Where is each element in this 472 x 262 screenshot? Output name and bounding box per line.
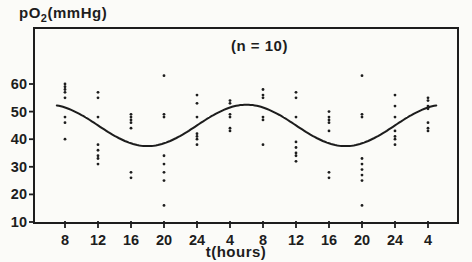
data-point [196,138,199,141]
data-point [394,143,397,146]
data-point [97,116,100,119]
data-point [97,154,100,157]
data-point [64,96,67,99]
data-point [427,121,430,124]
data-point [295,141,298,144]
data-point [295,96,298,99]
data-point [64,85,67,88]
data-point [427,99,430,102]
data-point [262,143,265,146]
data-point [361,174,364,177]
data-point [328,130,331,133]
data-point [196,94,199,97]
data-point [394,138,397,141]
data-point [427,127,430,130]
data-point [328,118,331,121]
data-point [328,171,331,174]
figure: pO2(mmHg) (n = 10) 102030405060812162024… [0,0,472,262]
data-point [361,204,364,207]
y-tick-label: 50 [11,104,27,120]
data-point [427,130,430,133]
data-point [328,116,331,119]
data-point [394,130,397,133]
data-point [196,135,199,138]
data-point [328,110,331,113]
data-point [427,107,430,110]
data-point [97,157,100,160]
data-point [229,113,232,116]
data-point [295,91,298,94]
y-tick-label: 30 [11,159,27,175]
data-point [262,96,265,99]
data-point [64,88,67,91]
data-point [64,83,67,86]
data-point [361,157,364,160]
data-point [427,105,430,108]
data-point [163,204,166,207]
data-point [361,168,364,171]
data-point [97,91,100,94]
data-point [130,121,133,124]
data-point [295,160,298,163]
data-point [361,74,364,77]
data-point [196,116,199,119]
data-point [262,94,265,97]
data-point [163,113,166,116]
data-point [394,116,397,119]
data-point [229,102,232,105]
y-tick-label: 40 [11,131,27,147]
data-point [97,96,100,99]
y-tick-label: 20 [11,186,27,202]
data-point [163,74,166,77]
data-point [130,127,133,130]
data-point [130,171,133,174]
data-point [361,163,364,166]
data-point [97,143,100,146]
data-point [196,102,199,105]
data-point [295,116,298,119]
data-point [361,113,364,116]
data-point [130,116,133,119]
data-point [361,116,364,119]
data-point [262,116,265,119]
data-point [229,116,232,119]
fitted-curve [57,105,437,146]
data-point [97,163,100,166]
data-point [295,154,298,157]
data-point [229,130,232,133]
data-point [295,152,298,155]
data-point [163,179,166,182]
data-point [394,135,397,138]
data-point [163,116,166,119]
data-point [328,176,331,179]
data-point [295,146,298,149]
data-point [394,105,397,108]
data-point [97,149,100,152]
x-axis-label: t(hours) [0,243,472,260]
data-point [394,94,397,97]
data-point [163,163,166,166]
data-point [229,127,232,130]
data-point [130,176,133,179]
data-point [361,179,364,182]
data-point [163,154,166,157]
y-tick-label: 60 [11,76,27,92]
data-point [64,121,67,124]
data-point [262,88,265,91]
data-point [229,99,232,102]
data-point [64,116,67,119]
data-point [262,118,265,121]
data-point [427,96,430,99]
data-point [196,143,199,146]
data-point [130,118,133,121]
data-point [163,171,166,174]
data-point [64,138,67,141]
data-point [328,121,331,124]
y-tick-label: 10 [11,214,27,230]
data-point [130,113,133,116]
data-point [196,132,199,135]
chart-plot-area: 10203040506081216202448121620244 [0,0,472,262]
data-point [64,91,67,94]
